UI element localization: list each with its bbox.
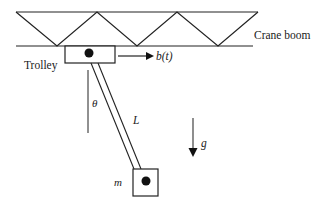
- mass: [133, 169, 158, 196]
- truss-diagonals: [16, 12, 258, 46]
- trolley: [65, 46, 115, 63]
- arrow-right-icon: [146, 52, 154, 60]
- rod-left-edge: [91, 63, 134, 169]
- crane-boom-label: Crane boom: [254, 29, 311, 41]
- force-arrow: [118, 52, 154, 60]
- force-label: b(t): [156, 50, 173, 63]
- arrow-down-icon: [189, 148, 198, 157]
- mass-label: m: [114, 176, 122, 188]
- crane-boom-truss: [16, 12, 258, 46]
- mass-dot: [142, 177, 151, 186]
- trolley-label: Trolley: [24, 59, 58, 72]
- crane-diagram: Crane boom Trolley b(t) θ L g m: [0, 0, 324, 205]
- gravity-arrow: [189, 118, 198, 157]
- trolley-pivot-dot: [85, 49, 94, 58]
- gravity-label: g: [201, 137, 207, 150]
- length-label: L: [132, 114, 139, 126]
- angle-label: θ: [92, 97, 98, 109]
